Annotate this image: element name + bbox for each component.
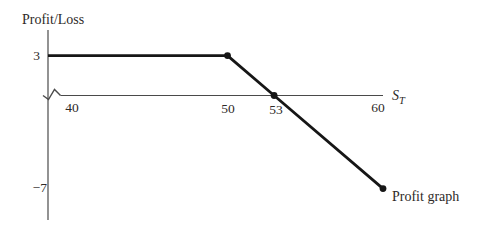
data-point-marker <box>224 52 231 59</box>
chart-canvas: Profit/Loss 3 −7 40 50 53 60 ST Profit g… <box>0 0 478 230</box>
x-axis-title-subscript: T <box>399 95 406 106</box>
y-tick-label-3: 3 <box>33 48 40 63</box>
x-axis-title: ST <box>392 88 406 106</box>
x-tick-label-53: 53 <box>269 102 283 117</box>
y-tick-label-neg7: −7 <box>33 180 48 195</box>
series-annotation: Profit graph <box>392 189 459 204</box>
x-tick-label-40: 40 <box>65 100 79 115</box>
data-point-marker <box>380 185 387 192</box>
x-axis-title-main: S <box>392 88 399 103</box>
x-tick-label-60: 60 <box>371 100 385 115</box>
data-point-marker <box>271 92 278 99</box>
y-axis-title: Profit/Loss <box>22 12 84 27</box>
x-tick-label-50: 50 <box>221 101 235 116</box>
x-axis-break-squiggle <box>43 90 61 100</box>
profit-loss-chart: Profit/Loss 3 −7 40 50 53 60 ST Profit g… <box>0 0 478 230</box>
profit-line <box>48 56 383 189</box>
